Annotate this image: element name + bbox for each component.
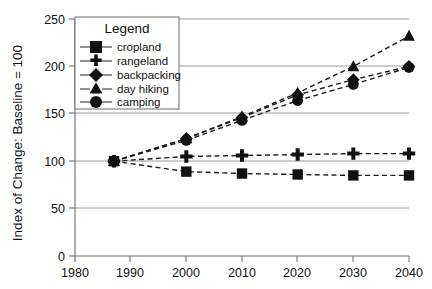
legend-label-day-hiking: day hiking bbox=[117, 83, 169, 95]
chart-container: Index of Change: Baseline = 100 250 bbox=[0, 0, 432, 289]
circle-marker-icon bbox=[237, 115, 248, 126]
y-tick-label-250: 250 bbox=[44, 13, 65, 27]
circle-marker-icon bbox=[348, 79, 359, 90]
legend-item-cropland[interactable]: cropland bbox=[80, 41, 161, 53]
legend-label-camping: camping bbox=[117, 96, 160, 108]
x-tick-label-2010: 2010 bbox=[228, 266, 256, 280]
circle-marker-icon bbox=[292, 95, 303, 106]
y-tick-label-50: 50 bbox=[51, 202, 65, 216]
circle-marker-icon bbox=[109, 156, 120, 167]
y-axis-title-text: Index of Change: Baseline = 100 bbox=[10, 45, 25, 241]
chart-svg: Index of Change: Baseline = 100 250 bbox=[0, 0, 432, 289]
x-tick-label-2030: 2030 bbox=[339, 266, 367, 280]
circle-marker-icon bbox=[181, 135, 192, 146]
legend-label-cropland: cropland bbox=[117, 41, 161, 53]
square-marker-icon bbox=[292, 169, 302, 179]
square-marker-icon bbox=[181, 166, 191, 176]
y-tick-label-200: 200 bbox=[44, 60, 65, 74]
square-marker-icon bbox=[237, 168, 247, 178]
legend-item-backpacking[interactable]: backpacking bbox=[80, 68, 181, 82]
legend-item-camping[interactable]: camping bbox=[80, 96, 160, 108]
legend: Legend cropland rangeland backpacking bbox=[75, 17, 181, 109]
x-tick-label-2020: 2020 bbox=[283, 266, 311, 280]
legend-title: Legend bbox=[104, 21, 149, 36]
x-tick-label-1990: 1990 bbox=[116, 266, 144, 280]
square-marker-icon bbox=[404, 170, 414, 180]
y-axis-title: Index of Change: Baseline = 100 bbox=[10, 45, 25, 241]
legend-label-backpacking: backpacking bbox=[117, 69, 181, 81]
square-marker-icon bbox=[90, 41, 102, 53]
circle-marker-icon bbox=[404, 62, 415, 73]
y-tick-label-0: 0 bbox=[58, 250, 65, 264]
y-tick-label-150: 150 bbox=[44, 107, 65, 121]
square-marker-icon bbox=[348, 170, 358, 180]
x-tick-label-2000: 2000 bbox=[172, 266, 200, 280]
x-tick-label-2040: 2040 bbox=[395, 266, 423, 280]
legend-label-rangeland: rangeland bbox=[117, 55, 168, 67]
y-tick-label-100: 100 bbox=[44, 155, 65, 169]
chart-background bbox=[0, 0, 432, 289]
x-tick-label-1980: 1980 bbox=[61, 266, 89, 280]
circle-marker-icon bbox=[90, 96, 102, 108]
